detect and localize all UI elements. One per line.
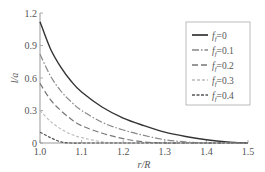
x-tick-label: 1.5 bbox=[242, 146, 255, 157]
y-tick-label: 0.6 bbox=[25, 73, 38, 84]
y-tick-label: 0.3 bbox=[25, 105, 38, 116]
x-tick-label: 1.3 bbox=[159, 146, 172, 157]
y-tick-label: 1.2 bbox=[25, 8, 38, 19]
legend: ff=0ff=0.1ff=0.2ff=0.3ff=0.4 bbox=[186, 22, 250, 105]
curve-series-3 bbox=[40, 111, 248, 144]
y-tick-label: 0 bbox=[32, 138, 37, 149]
x-tick-label: 1.2 bbox=[117, 146, 130, 157]
x-tick-label: 1.4 bbox=[200, 146, 213, 157]
line-chart: 1.01.11.21.31.41.500.30.60.91.2r/Rl/a ff… bbox=[0, 0, 265, 172]
y-axis-label: l/a bbox=[9, 73, 20, 84]
x-axis-label: r/R bbox=[138, 159, 151, 170]
y-tick-label: 0.9 bbox=[25, 40, 38, 51]
x-tick-label: 1.1 bbox=[75, 146, 88, 157]
